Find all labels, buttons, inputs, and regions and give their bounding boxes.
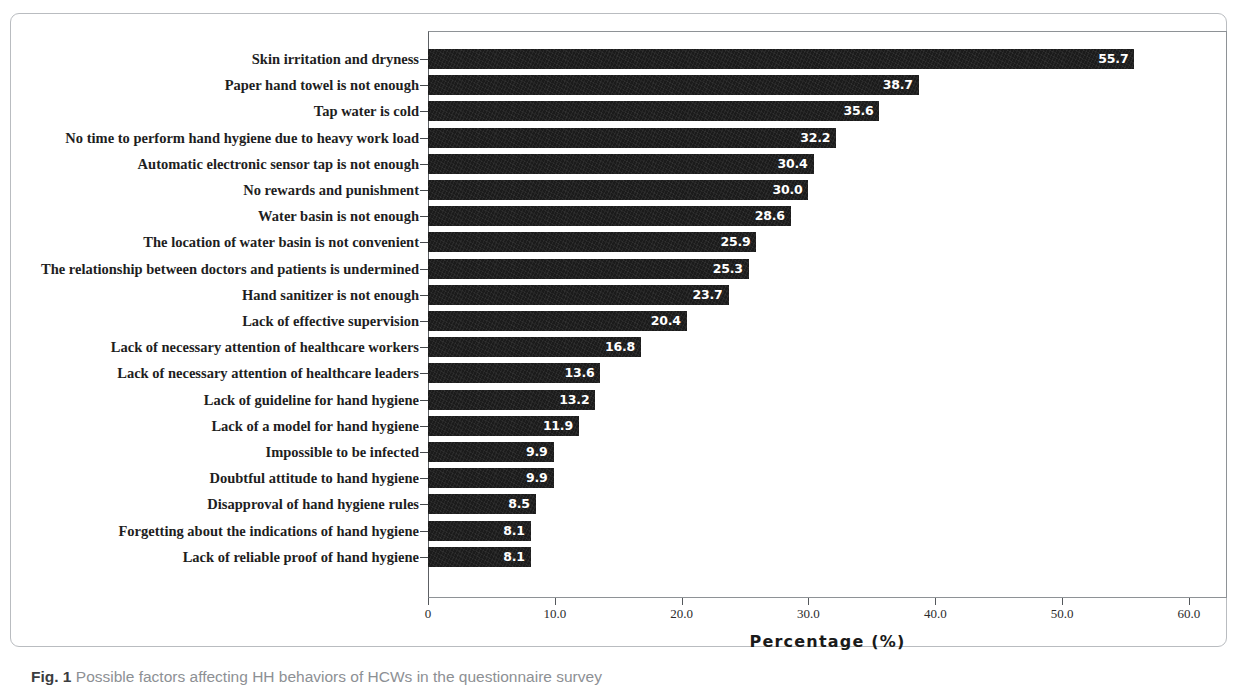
bar-row: 8.5 xyxy=(428,494,1227,514)
x-axis-tick xyxy=(682,598,683,605)
bar-row: 13.6 xyxy=(428,363,1227,383)
category-tick xyxy=(420,347,428,348)
category-tick xyxy=(420,531,428,532)
figure-caption-body: Possible factors affecting HH behaviors … xyxy=(76,668,602,685)
category-label: The relationship between doctors and pat… xyxy=(41,259,419,279)
bar-value-label: 8.1 xyxy=(485,521,525,541)
category-label: Skin irritation and dryness xyxy=(252,49,419,69)
bar-value-label: 32.2 xyxy=(790,128,830,148)
bar-row: 11.9 xyxy=(428,416,1227,436)
bar-row: 16.8 xyxy=(428,337,1227,357)
bar-value-label: 23.7 xyxy=(683,285,723,305)
category-label: Impossible to be infected xyxy=(266,442,419,462)
category-tick xyxy=(420,138,428,139)
bar-value-label: 16.8 xyxy=(595,337,635,357)
x-axis-tick xyxy=(428,598,429,605)
x-axis-tick-label: 20.0 xyxy=(670,606,693,622)
category-tick xyxy=(420,85,428,86)
category-label: Paper hand towel is not enough xyxy=(225,75,419,95)
category-axis: Skin irritation and drynessPaper hand to… xyxy=(11,31,428,598)
bar-value-label: 13.2 xyxy=(549,390,589,410)
x-axis-tick-label: 10.0 xyxy=(543,606,566,622)
figure-caption: Fig. 1 Possible factors affecting HH beh… xyxy=(31,668,602,686)
x-axis-tick-label: 0 xyxy=(425,606,432,622)
category-label: No rewards and punishment xyxy=(243,180,419,200)
x-axis-tick xyxy=(1062,598,1063,605)
category-tick xyxy=(420,478,428,479)
figure-caption-label: Fig. 1 xyxy=(31,668,71,685)
bar-row: 25.3 xyxy=(428,259,1227,279)
x-axis-tick-label: 40.0 xyxy=(924,606,947,622)
bar-row: 28.6 xyxy=(428,206,1227,226)
bar-series: 55.738.735.632.230.430.028.625.925.323.7… xyxy=(428,31,1227,598)
category-tick xyxy=(420,269,428,270)
category-tick xyxy=(420,59,428,60)
bar-value-label: 38.7 xyxy=(873,75,913,95)
category-tick xyxy=(420,504,428,505)
bar-row: 20.4 xyxy=(428,311,1227,331)
category-tick xyxy=(420,216,428,217)
bar xyxy=(428,232,756,252)
category-label: Lack of a model for hand hygiene xyxy=(211,416,419,436)
bar-row: 13.2 xyxy=(428,390,1227,410)
category-label: Lack of effective supervision xyxy=(242,311,419,331)
category-tick xyxy=(420,452,428,453)
category-tick xyxy=(420,426,428,427)
category-label: Forgetting about the indications of hand… xyxy=(119,521,420,541)
category-label: Lack of guideline for hand hygiene xyxy=(204,390,419,410)
x-axis-tick-label: 50.0 xyxy=(1051,606,1074,622)
category-tick xyxy=(420,295,428,296)
bar xyxy=(428,101,879,121)
bar xyxy=(428,49,1134,69)
bar xyxy=(428,128,836,148)
bar-row: 25.9 xyxy=(428,232,1227,252)
category-label: The location of water basin is not conve… xyxy=(143,232,419,252)
bar-value-label: 25.9 xyxy=(710,232,750,252)
bar-value-label: 9.9 xyxy=(508,442,548,462)
category-tick xyxy=(420,242,428,243)
x-axis-tick xyxy=(935,598,936,605)
bar-value-label: 20.4 xyxy=(641,311,681,331)
bar-value-label: 28.6 xyxy=(745,206,785,226)
category-tick xyxy=(420,400,428,401)
bar-value-label: 35.6 xyxy=(833,101,873,121)
category-tick xyxy=(420,321,428,322)
category-label: Hand sanitizer is not enough xyxy=(242,285,419,305)
category-label: Lack of reliable proof of hand hygiene xyxy=(183,547,419,567)
x-axis-tick xyxy=(555,598,556,605)
bar-value-label: 30.4 xyxy=(768,154,808,174)
bar-value-label: 13.6 xyxy=(554,363,594,383)
bar-row: 32.2 xyxy=(428,128,1227,148)
category-label: Water basin is not enough xyxy=(258,206,419,226)
bar-value-label: 8.1 xyxy=(485,547,525,567)
bar-row: 55.7 xyxy=(428,49,1227,69)
x-axis-tick-label: 30.0 xyxy=(797,606,820,622)
category-tick xyxy=(420,111,428,112)
x-axis-tick xyxy=(1189,598,1190,605)
x-axis-tick-label: 60.0 xyxy=(1178,606,1201,622)
bar-row: 9.9 xyxy=(428,468,1227,488)
bar-row: 9.9 xyxy=(428,442,1227,462)
category-tick xyxy=(420,190,428,191)
category-tick xyxy=(420,557,428,558)
x-axis-title: Percentage (%) xyxy=(428,632,1227,651)
bar xyxy=(428,206,791,226)
bar-value-label: 8.5 xyxy=(490,494,530,514)
bar xyxy=(428,154,814,174)
x-axis-tick xyxy=(808,598,809,605)
bar-value-label: 11.9 xyxy=(533,416,573,436)
bar xyxy=(428,259,749,279)
figure-panel: Skin irritation and drynessPaper hand to… xyxy=(10,13,1227,647)
bar-row: 35.6 xyxy=(428,101,1227,121)
bar-row: 30.0 xyxy=(428,180,1227,200)
bar-value-label: 30.0 xyxy=(762,180,802,200)
bar-value-label: 25.3 xyxy=(703,259,743,279)
bar-row: 23.7 xyxy=(428,285,1227,305)
bar-row: 38.7 xyxy=(428,75,1227,95)
bar xyxy=(428,180,808,200)
category-label: Doubtful attitude to hand hygiene xyxy=(210,468,419,488)
category-label: Tap water is cold xyxy=(314,101,419,121)
bar-value-label: 55.7 xyxy=(1088,49,1128,69)
category-label: Lack of necessary attention of healthcar… xyxy=(111,337,419,357)
bar-value-label: 9.9 xyxy=(508,468,548,488)
